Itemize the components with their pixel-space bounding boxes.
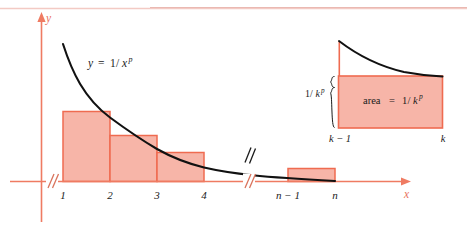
x-tick-label-3: 3 <box>153 189 160 201</box>
x-tick-label-n: n <box>332 189 338 201</box>
x-tick-label-4: 4 <box>201 189 207 201</box>
inset-area-numerator: 1 <box>402 95 407 106</box>
x-axis-break-mark-middle-icon <box>243 174 256 190</box>
inset-height-base: k <box>316 88 321 99</box>
inset-height-exponent: p <box>320 87 325 95</box>
y-axis-label: y <box>45 12 52 25</box>
inset-area-word: area <box>363 95 381 106</box>
x-axis-break-mark-left-icon <box>46 174 59 190</box>
table-row <box>157 153 204 182</box>
curve-label-equals: = <box>98 57 105 69</box>
inset-area-equals: = <box>389 95 395 106</box>
x-tick-label-1: 1 <box>60 189 66 201</box>
curve-label-base: x <box>121 57 128 69</box>
inset-area-slash: / <box>408 95 411 106</box>
curve-label-exponent: p <box>128 55 133 64</box>
curve-label-lhs: y <box>87 57 94 70</box>
x-tick-label-2: 2 <box>107 189 113 201</box>
integral-test-figure: y x 1 2 3 4 n − 1 n y = 1 / x p <box>0 0 467 231</box>
x-tick-label-n-minus-1: n − 1 <box>276 189 300 201</box>
x-axis-label: x <box>403 188 410 200</box>
inset-area-base: k <box>413 95 418 106</box>
inset-x-tick-label-k: k <box>441 133 446 144</box>
table-row <box>110 136 157 182</box>
inset-area-label: area = 1 / k p <box>363 92 423 106</box>
inset-height-slash: / <box>310 88 313 99</box>
table-row <box>63 112 110 182</box>
inset-area-exponent: p <box>418 92 423 101</box>
inset-x-tick-label-k-minus-1: k − 1 <box>329 133 351 144</box>
figure-root: y x 1 2 3 4 n − 1 n y = 1 / x p <box>0 0 467 231</box>
